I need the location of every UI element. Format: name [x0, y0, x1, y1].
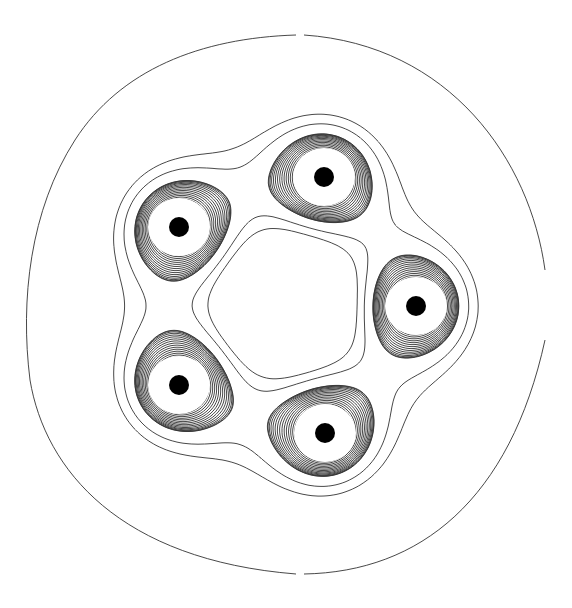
- nucleus-top-icon: [314, 167, 334, 187]
- outer-contour: [26, 35, 545, 574]
- contour-diagram: Contour plot of a five-center ring (pent…: [0, 0, 572, 608]
- nucleus-right-icon: [406, 296, 426, 316]
- contour-plot: [0, 0, 572, 608]
- nucleus-bottom-icon: [315, 423, 335, 443]
- nucleus-lower-left-icon: [169, 375, 189, 395]
- nucleus-upper-left-icon: [169, 217, 189, 237]
